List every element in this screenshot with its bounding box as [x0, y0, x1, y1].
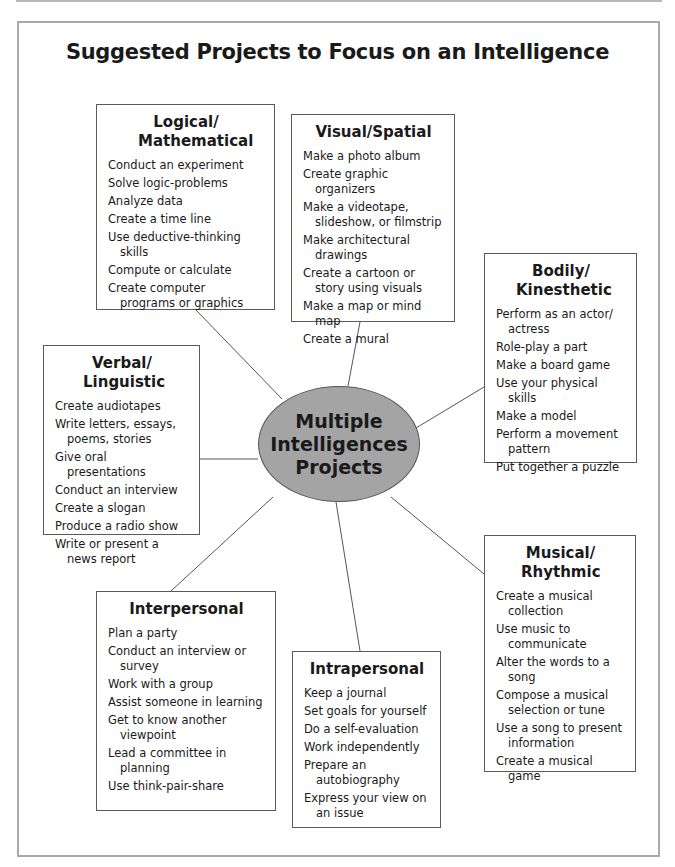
hub-label: Multiple Intelligences Projects: [270, 410, 408, 479]
connector-intrapersonal: [336, 502, 360, 651]
list-item: Perform as an actor/ actress: [496, 307, 626, 337]
list-item: Work independently: [304, 740, 430, 755]
list-item: Keep a journal: [304, 686, 430, 701]
list-item: Conduct an interview or survey: [108, 644, 265, 674]
box-visual-spatial: Visual/Spatial Make a photo album Create…: [291, 114, 455, 322]
list-item: Express your view on an issue: [304, 791, 430, 821]
item-list: Perform as an actor/ actress Role-play a…: [496, 307, 626, 475]
box-heading: Verbal/ Linguistic: [55, 354, 189, 392]
box-musical-rhythmic: Musical/ Rhythmic Create a musical colle…: [484, 535, 636, 772]
list-item: Create graphic organizers: [303, 167, 444, 197]
list-item: Make a board game: [496, 358, 626, 373]
center-hub: Multiple Intelligences Projects: [258, 386, 420, 502]
item-list: Plan a party Conduct an interview or sur…: [108, 626, 265, 794]
list-item: Compute or calculate: [108, 263, 264, 278]
list-item: Make a videotape, slideshow, or filmstri…: [303, 200, 444, 230]
box-heading: Musical/ Rhythmic: [496, 544, 625, 582]
list-item: Use a song to present information: [496, 721, 625, 751]
list-item: Compose a musical selection or tune: [496, 688, 625, 718]
box-heading: Logical/ Mathematical: [108, 113, 264, 151]
list-item: Create a slogan: [55, 501, 189, 516]
list-item: Make a map or mind map: [303, 299, 444, 329]
box-intrapersonal: Intrapersonal Keep a journal Set goals f…: [292, 651, 441, 828]
list-item: Create audiotapes: [55, 399, 189, 414]
connector-musical: [391, 497, 484, 574]
list-item: Write or present a news report: [55, 537, 189, 567]
list-item: Use deductive-thinking skills: [108, 230, 264, 260]
list-item: Make a model: [496, 409, 626, 424]
list-item: Create a musical game: [496, 754, 625, 784]
list-item: Lead a committee in planning: [108, 746, 265, 776]
list-item: Use your physical skills: [496, 376, 626, 406]
item-list: Keep a journal Set goals for yourself Do…: [304, 686, 430, 821]
list-item: Solve logic-problems: [108, 176, 264, 191]
box-verbal-linguistic: Verbal/ Linguistic Create audiotapes Wri…: [43, 345, 200, 535]
list-item: Create a time line: [108, 212, 264, 227]
box-bodily-kinesthetic: Bodily/ Kinesthetic Perform as an actor/…: [484, 253, 637, 463]
list-item: Use music to communicate: [496, 622, 625, 652]
list-item: Alter the words to a song: [496, 655, 625, 685]
list-item: Analyze data: [108, 194, 264, 209]
list-item: Write letters, essays, poems, stories: [55, 417, 189, 447]
box-heading: Visual/Spatial: [303, 123, 444, 142]
item-list: Create a musical collection Use music to…: [496, 589, 625, 784]
list-item: Use think-pair-share: [108, 779, 265, 794]
list-item: Set goals for yourself: [304, 704, 430, 719]
list-item: Perform a movement pattern: [496, 427, 626, 457]
list-item: Conduct an interview: [55, 483, 189, 498]
list-item: Prepare an autobiography: [304, 758, 430, 788]
box-heading: Interpersonal: [108, 600, 265, 619]
box-interpersonal: Interpersonal Plan a party Conduct an in…: [96, 591, 276, 811]
list-item: Put together a puzzle: [496, 460, 626, 475]
list-item: Assist someone in learning: [108, 695, 265, 710]
list-item: Create a cartoon or story using visuals: [303, 266, 444, 296]
list-item: Do a self-evaluation: [304, 722, 430, 737]
box-heading: Bodily/ Kinesthetic: [496, 262, 626, 300]
connector-logical: [196, 310, 282, 399]
list-item: Produce a radio show: [55, 519, 189, 534]
list-item: Get to know another viewpoint: [108, 713, 265, 743]
item-list: Create audiotapes Write letters, essays,…: [55, 399, 189, 567]
list-item: Make a photo album: [303, 149, 444, 164]
list-item: Give oral presentations: [55, 450, 189, 480]
box-heading: Intrapersonal: [304, 660, 430, 679]
list-item: Create a mural: [303, 332, 444, 347]
connector-bodily: [416, 387, 484, 428]
item-list: Conduct an experiment Solve logic-proble…: [108, 158, 264, 311]
list-item: Role-play a part: [496, 340, 626, 355]
list-item: Conduct an experiment: [108, 158, 264, 173]
list-item: Make architectural drawings: [303, 233, 444, 263]
list-item: Plan a party: [108, 626, 265, 641]
list-item: Work with a group: [108, 677, 265, 692]
list-item: Create a musical collection: [496, 589, 625, 619]
item-list: Make a photo album Create graphic organi…: [303, 149, 444, 347]
box-logical-mathematical: Logical/ Mathematical Conduct an experim…: [96, 104, 275, 310]
list-item: Create computer programs or graphics: [108, 281, 264, 311]
